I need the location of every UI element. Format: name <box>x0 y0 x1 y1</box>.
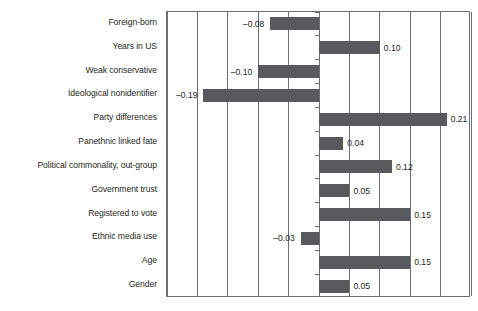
bar <box>319 280 349 293</box>
category-label: Political commonality, out-group <box>0 161 162 170</box>
bar <box>258 65 319 78</box>
category-label: Years in US <box>0 42 162 51</box>
horizontal-bar-chart: Foreign-bornYears in USWeak conservative… <box>0 0 478 311</box>
category-label: Ethnic media use <box>0 232 162 241</box>
category-label: Party differences <box>0 113 162 122</box>
bar-value-label: 0.05 <box>353 186 370 195</box>
category-axis: Foreign-bornYears in USWeak conservative… <box>0 11 162 297</box>
bar-value-label: –0.10 <box>231 67 253 76</box>
bar-row: 0.05 <box>167 184 469 197</box>
category-label: Government trust <box>0 185 162 194</box>
bar <box>319 208 410 221</box>
bar-value-label: 0.15 <box>414 210 431 219</box>
category-label: Foreign-born <box>0 18 162 27</box>
bar <box>319 113 447 126</box>
bar <box>319 184 349 197</box>
category-label: Ideological nonidentifier <box>0 89 162 98</box>
category-label: Age <box>0 256 162 265</box>
zero-axis-tick <box>315 59 319 60</box>
category-label: Weak conservative <box>0 66 162 75</box>
bar-row: 0.15 <box>167 208 469 221</box>
category-label: Panethnic linked fate <box>0 137 162 146</box>
bar-row: –0.10 <box>167 65 469 78</box>
bar-row: 0.10 <box>167 41 469 54</box>
zero-axis-tick <box>315 274 319 275</box>
bar-value-label: 0.21 <box>451 115 468 124</box>
bar-value-label: 0.10 <box>384 43 401 52</box>
category-label: Gender <box>0 280 162 289</box>
bar-row: –0.03 <box>167 232 469 245</box>
bar-row: 0.04 <box>167 137 469 150</box>
bar-row: 0.15 <box>167 256 469 269</box>
bar-value-label: 0.04 <box>347 139 364 148</box>
bar-row: –0.08 <box>167 17 469 30</box>
bar <box>319 41 380 54</box>
category-label: Registered to vote <box>0 209 162 218</box>
bar-row: 0.12 <box>167 160 469 173</box>
bar <box>301 232 319 245</box>
zero-axis-tick <box>315 178 319 179</box>
zero-axis-tick <box>315 155 319 156</box>
zero-axis-tick <box>315 83 319 84</box>
bar-row: –0.19 <box>167 89 469 102</box>
bar-value-label: 0.15 <box>414 258 431 267</box>
bar-row: 0.05 <box>167 280 469 293</box>
zero-axis-tick <box>315 226 319 227</box>
zero-axis-tick <box>315 35 319 36</box>
zero-axis-tick <box>315 131 319 132</box>
bar <box>319 160 392 173</box>
zero-axis-tick <box>315 202 319 203</box>
bar-value-label: 0.12 <box>396 163 413 172</box>
plot-area: –0.080.10–0.10–0.190.210.040.120.050.15–… <box>166 11 470 297</box>
gridline-10 <box>471 12 472 296</box>
bar-value-label: –0.03 <box>273 234 295 243</box>
bar <box>319 256 410 269</box>
bar-value-label: –0.19 <box>176 91 198 100</box>
zero-axis-tick <box>315 12 319 13</box>
bar-value-label: –0.08 <box>243 20 265 29</box>
bar <box>203 89 319 102</box>
bar <box>270 17 319 30</box>
zero-axis-tick <box>315 107 319 108</box>
bars-layer: –0.080.10–0.10–0.190.210.040.120.050.15–… <box>167 12 469 296</box>
zero-axis-tick <box>315 250 319 251</box>
bar-row: 0.21 <box>167 113 469 126</box>
bar-value-label: 0.05 <box>353 282 370 291</box>
bar <box>319 137 343 150</box>
